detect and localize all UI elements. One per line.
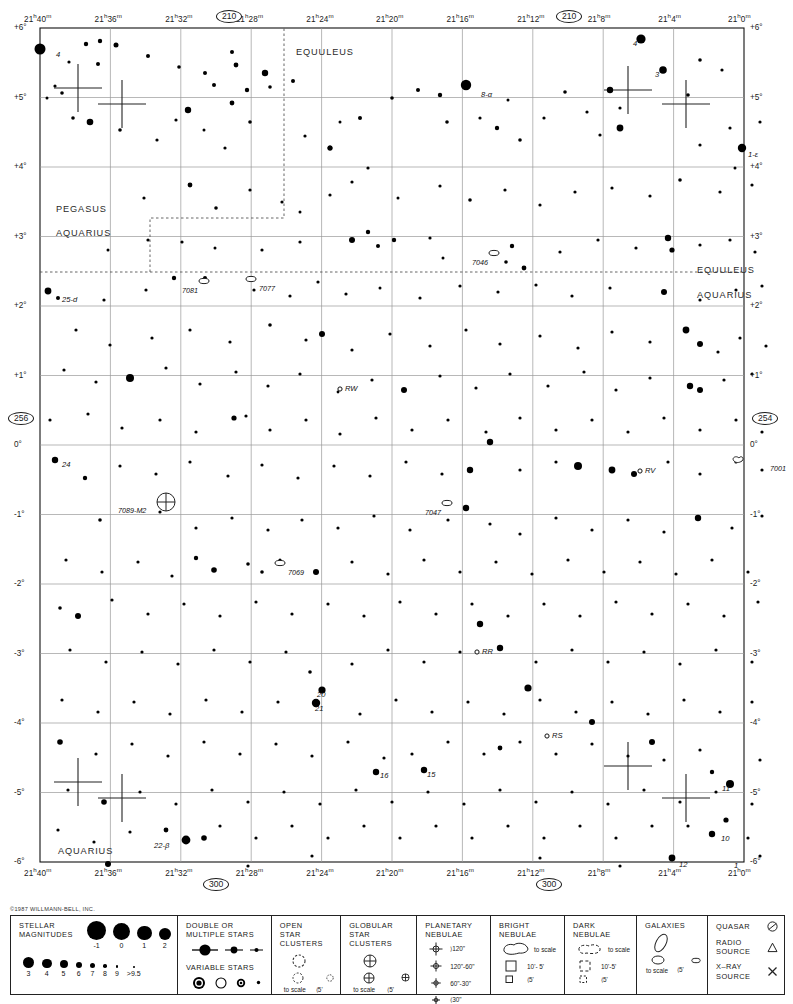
star-marker xyxy=(260,248,263,251)
star-marker xyxy=(538,203,541,206)
star-marker xyxy=(140,650,143,653)
star-marker xyxy=(470,602,473,605)
star-marker xyxy=(304,338,307,341)
legend-bright-nebula-scale-row: to scale xyxy=(501,941,558,957)
legend-stellar-magnitudes: STELLAR MAGNITUDES -1012 3456789>9.5 xyxy=(11,916,178,994)
star-marker xyxy=(218,824,221,827)
star-marker xyxy=(498,788,501,791)
star-marker xyxy=(166,754,169,757)
star-marker xyxy=(230,101,235,106)
legend-variable-title: VARIABLE STARS xyxy=(186,963,265,972)
star-marker xyxy=(554,752,557,755)
star-marker xyxy=(188,460,191,463)
star-marker xyxy=(308,670,312,674)
dec-tick-left-10: -4° xyxy=(14,718,25,727)
epoch-cross-marker xyxy=(54,758,102,806)
star-marker xyxy=(468,198,472,202)
star-marker xyxy=(260,463,263,466)
star-marker xyxy=(506,824,509,827)
bright-nebula-small-icon xyxy=(505,975,514,984)
magnitude-dot xyxy=(90,963,95,968)
star-marker xyxy=(753,250,756,253)
star-marker xyxy=(428,344,431,347)
star-marker xyxy=(350,560,353,563)
open-cluster-to-scale-icon xyxy=(292,972,304,984)
magnitude-dot xyxy=(103,964,107,968)
star-marker xyxy=(313,569,319,575)
legend-double-title: DOUBLE OR MULTIPLE STARS xyxy=(186,921,265,939)
star-marker xyxy=(578,824,581,827)
star-marker xyxy=(720,68,723,71)
variable-star-label-2: RR xyxy=(482,647,493,656)
star-marker xyxy=(662,758,665,761)
star-marker xyxy=(58,606,62,610)
dso-label-5: 7001 xyxy=(770,464,786,473)
star-marker xyxy=(618,864,621,867)
legend-quasar-row: QUASAR xyxy=(716,921,778,932)
star-marker xyxy=(686,602,689,605)
star-marker xyxy=(710,558,713,561)
star-marker xyxy=(366,166,369,169)
epoch-cross-marker xyxy=(98,774,146,822)
star-marker xyxy=(440,472,443,475)
star-marker xyxy=(438,93,442,97)
star-marker xyxy=(254,836,257,839)
planetary-nebula-icon xyxy=(429,959,443,973)
legend-mag-9: 9 xyxy=(115,965,119,977)
star-marker xyxy=(462,802,465,805)
legend-planetary-row-1: 120"-60" xyxy=(429,959,484,973)
legend-bright-nebula-small-row: ⟨5' xyxy=(505,975,558,984)
star-marker xyxy=(617,125,624,132)
star-marker xyxy=(164,366,167,369)
dark-nebula-medium-label: 10'-5' xyxy=(601,963,616,970)
star-marker xyxy=(642,650,645,653)
star-marker xyxy=(310,754,313,757)
star-marker xyxy=(728,238,731,241)
star-marker xyxy=(530,572,533,575)
star-marker xyxy=(67,60,70,63)
star-marker xyxy=(244,414,247,417)
star-marker xyxy=(618,106,621,109)
star-marker xyxy=(120,426,123,429)
star-marker xyxy=(626,430,629,433)
variable-star-label-3: RS xyxy=(552,731,563,740)
star-marker xyxy=(709,831,715,837)
variable-star-small-icon xyxy=(255,979,262,986)
star-marker xyxy=(373,769,379,775)
star-marker xyxy=(254,600,257,603)
star-marker xyxy=(596,238,599,241)
epoch-cross-marker xyxy=(662,774,710,822)
star-marker xyxy=(104,660,107,663)
star-marker xyxy=(376,244,380,248)
star-marker xyxy=(372,514,375,517)
star-marker xyxy=(458,284,461,287)
star-marker xyxy=(300,518,303,521)
star-marker xyxy=(467,467,473,473)
star-marker xyxy=(626,754,629,757)
star-marker xyxy=(610,330,613,333)
star-marker xyxy=(240,710,243,713)
star-marker xyxy=(590,418,593,421)
star-marker xyxy=(298,240,301,243)
dso-symbol-galaxy xyxy=(246,276,256,281)
star-marker xyxy=(723,817,728,822)
ra-tick-top-0: 21h40m xyxy=(24,12,51,24)
star-marker xyxy=(614,836,617,839)
star-marker xyxy=(669,855,676,862)
star-label-11: 11 xyxy=(722,784,730,793)
star-marker xyxy=(503,188,506,191)
ra-tick-top-10: 21h0m xyxy=(728,12,751,24)
star-marker xyxy=(678,178,682,182)
star-marker xyxy=(245,88,249,92)
dso-symbol-galaxy xyxy=(199,278,209,283)
star-marker xyxy=(188,183,193,188)
ra-tick-top-8: 21h8m xyxy=(588,12,611,24)
dark-nebula-small-icon xyxy=(579,975,588,984)
star-marker xyxy=(146,54,150,58)
star-marker xyxy=(538,856,541,859)
star-marker xyxy=(174,802,177,805)
open-cluster-icon xyxy=(292,954,306,968)
star-marker xyxy=(349,237,355,243)
star-marker xyxy=(246,800,249,803)
dso-symbol-globular xyxy=(157,493,175,511)
